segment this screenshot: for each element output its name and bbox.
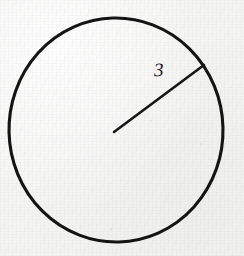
radius-length-label: 3 [154, 60, 164, 79]
circle-diagram-svg [0, 0, 244, 256]
geometry-figure-canvas: 3 [0, 0, 244, 256]
